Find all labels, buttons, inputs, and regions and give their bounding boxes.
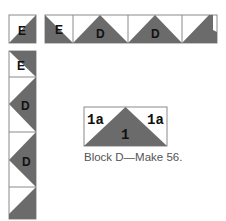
corner-label: E: [18, 24, 26, 38]
top-cell-label-0: E: [55, 23, 63, 37]
top-border-strip: E D D: [45, 15, 217, 43]
left-cell-label-2: D: [22, 155, 31, 169]
patch-label-left: 1a: [87, 112, 104, 128]
block-d-caption: Block D—Make 56.: [84, 151, 182, 163]
corner-block-e: E: [9, 15, 36, 43]
patch-label-right: 1a: [147, 112, 164, 128]
quilt-border-diagram: E E D D E D D: [0, 0, 226, 221]
top-cell-label-2: D: [151, 27, 160, 41]
patch-label-center: 1: [121, 127, 129, 143]
top-cell-label-1: D: [96, 27, 105, 41]
left-cell-label-1: D: [21, 99, 30, 113]
block-d-diagram: 1a 1 1a: [84, 107, 167, 146]
left-cell-label-0: E: [17, 59, 25, 73]
left-border-strip: E D D: [9, 51, 36, 219]
